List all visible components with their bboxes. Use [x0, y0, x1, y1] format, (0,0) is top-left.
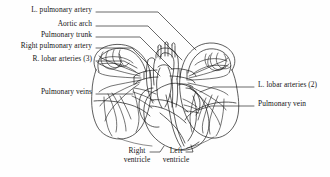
leader-l-lobar-arteries	[200, 87, 254, 92]
label-l-pulmonary-artery: L. pulmonary artery	[31, 6, 92, 15]
label-r-lobar-arteries: R. lobar arteries (3)	[32, 55, 92, 64]
anatomy-figure: L. pulmonary artery Aortic arch Pulmonar…	[0, 0, 330, 177]
label-pulmonary-trunk: Pulmonary trunk	[41, 31, 92, 40]
left-lobar-vessels	[188, 53, 231, 136]
label-left-ventricle-line2: ventricle	[163, 156, 190, 165]
label-right-ventricle-line2: ventricle	[124, 156, 151, 165]
left-pulmonary-artery-vessel	[170, 69, 196, 83]
label-right-pulmonary-artery: Right pulmonary artery	[21, 42, 92, 51]
right-lobar-vessels	[97, 50, 141, 136]
label-pulmonary-vein: Pulmonary vein	[258, 100, 306, 109]
label-l-lobar-arteries: L. lobar arteries (2)	[258, 81, 317, 90]
label-aortic-arch: Aortic arch	[58, 20, 92, 29]
aortic-arch-and-great-vessels	[156, 42, 179, 107]
label-pulmonary-veins: Pulmonary veins	[41, 88, 92, 97]
heart-body	[139, 83, 209, 150]
leader-l-pulmonary-artery	[96, 12, 196, 50]
leader-right-ventricle	[150, 146, 164, 152]
